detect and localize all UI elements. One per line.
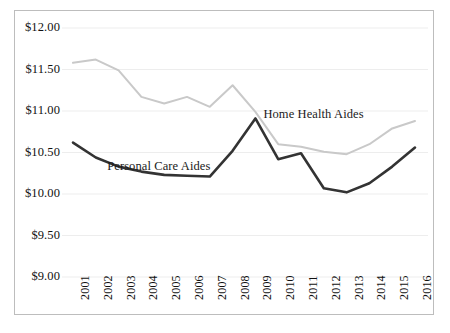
y-axis-tick-label: $10.00 — [18, 186, 60, 201]
gridlines — [62, 28, 428, 277]
x-axis-tick-label: 2006 — [192, 275, 207, 300]
x-axis-tick-label: 2003 — [124, 275, 139, 300]
x-axis-tick-label: 2004 — [146, 275, 161, 300]
y-axis-tick-label: $11.50 — [18, 62, 60, 77]
x-axis-tick-label: 2015 — [397, 275, 412, 300]
y-axis-tick-label: $12.00 — [18, 20, 60, 35]
y-axis-tick-label: $9.50 — [18, 228, 60, 243]
x-axis-tick-label: 2016 — [420, 275, 435, 300]
x-axis-tick-label: 2001 — [78, 275, 93, 300]
x-axis-tick-label: 2013 — [352, 275, 367, 300]
x-axis-tick-label: 2010 — [283, 275, 298, 300]
line-chart: $12.00$11.50$11.00$10.50$10.00$9.50$9.00… — [0, 0, 450, 333]
x-axis-tick-label: 2011 — [306, 276, 321, 300]
y-axis-tick-label: $9.00 — [18, 269, 60, 284]
x-axis-tick-label: 2014 — [374, 275, 389, 300]
series-annotation-home-health-aides: Home Health Aides — [263, 107, 363, 122]
x-axis-tick-label: 2007 — [215, 275, 230, 300]
y-axis-tick-label: $10.50 — [18, 145, 60, 160]
x-axis-tick-label: 2002 — [101, 275, 116, 300]
x-axis-tick-label: 2012 — [329, 275, 344, 300]
series-annotation-personal-care-aides: Personal Care Aides — [107, 159, 210, 174]
series-line-personal-care-aides — [73, 118, 415, 192]
y-axis-tick-label: $11.00 — [18, 103, 60, 118]
x-axis-tick-label: 2009 — [260, 275, 275, 300]
x-axis-tick-label: 2008 — [238, 275, 253, 300]
x-axis-tick-label: 2005 — [169, 275, 184, 300]
